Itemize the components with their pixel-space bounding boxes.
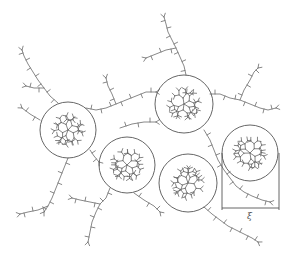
blob-center-branches — [110, 149, 144, 181]
chain-top-link-side — [103, 74, 116, 104]
chain-top-up — [161, 13, 186, 75]
chain-left-center — [90, 150, 103, 166]
chain-top-link — [86, 88, 159, 113]
chains-layer — [16, 13, 280, 246]
polymer-blob-diagram: ξ — [0, 0, 294, 255]
chain-center-bottom — [134, 193, 164, 216]
chain-center-down — [85, 188, 112, 246]
chain-left-down-side — [16, 206, 48, 217]
xi-label: ξ — [247, 211, 252, 221]
chain-top-up-side — [142, 48, 176, 61]
chain-bottom-right — [204, 207, 262, 246]
blob-right-branches — [233, 137, 267, 170]
chain-center-down-side — [68, 195, 100, 207]
blobs-layer — [40, 75, 278, 212]
blob-bottom-branches — [171, 166, 204, 201]
blob-left-branches — [51, 113, 85, 148]
blob-top-branches — [167, 87, 202, 120]
chain-upper-left — [19, 46, 58, 103]
chain-top-right — [210, 90, 280, 113]
chain-left-top — [18, 104, 40, 120]
chain-top-right-side — [238, 64, 262, 100]
chain-mid-left — [120, 118, 159, 128]
